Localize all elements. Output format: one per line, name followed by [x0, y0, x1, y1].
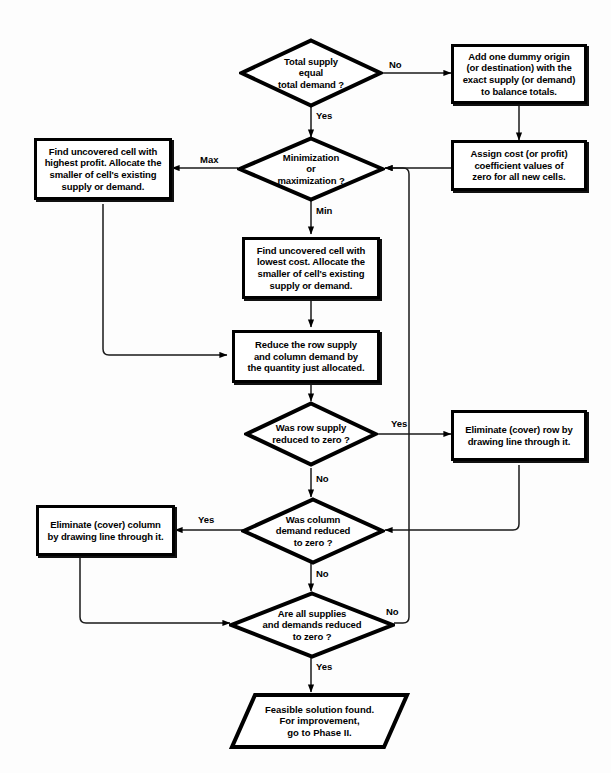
edge-label-supply-no: No — [389, 60, 402, 70]
edge-label-all-yes: Yes — [316, 662, 332, 672]
decision-column-demand-zero[interactable]: Was column demand reduced to zero ? — [241, 497, 385, 565]
text-line: Assign cost (or profit) — [471, 148, 568, 160]
process-eliminate-row-label: Eliminate (cover) row by drawing line th… — [465, 424, 572, 447]
process-lowest-cost-label: Find uncovered cell with lowest cost. Al… — [257, 245, 365, 291]
process-highest-profit-label: Find uncovered cell with highest profit.… — [45, 146, 162, 192]
text-line: equal — [278, 67, 344, 79]
edge-label-min: Min — [316, 206, 332, 216]
text-line: reduced to zero ? — [272, 434, 349, 446]
edge-label-col-yes: Yes — [198, 515, 214, 525]
text-line: coefficient values of — [471, 160, 568, 172]
terminal-feasible-solution-label: Feasible solution found. For improvement… — [229, 692, 410, 750]
edge-label-row-no: No — [316, 474, 329, 484]
edge-elimrow-to-coldemand — [385, 465, 519, 530]
edge-elimcol-to-allreduced — [80, 557, 230, 623]
text-line: Are all supplies — [263, 608, 362, 620]
decision-all-reduced-zero[interactable]: Are all supplies and demands reduced to … — [229, 591, 395, 659]
edge-label-all-no: No — [386, 607, 399, 617]
text-line: Find uncovered cell with — [257, 245, 365, 257]
edge-all-no-loop — [385, 168, 409, 623]
text-line: maximization ? — [277, 175, 344, 187]
decision-total-supply[interactable]: Total supply equal total demand ? — [239, 38, 383, 108]
text-line: Was column — [276, 514, 351, 526]
text-line: and column demand by — [247, 351, 364, 363]
decision-row-supply-zero[interactable]: Was row supply reduced to zero ? — [244, 401, 378, 467]
process-lowest-cost[interactable]: Find uncovered cell with lowest cost. Al… — [242, 237, 380, 299]
decision-row-supply-zero-label: Was row supply reduced to zero ? — [244, 401, 378, 467]
text-line: drawing line through it. — [465, 436, 572, 448]
edge-label-col-no: No — [316, 569, 329, 579]
text-line: smaller of cell's existing — [257, 268, 365, 280]
text-line: to balance totals. — [463, 86, 576, 98]
text-line: supply or demand. — [45, 181, 162, 193]
decision-all-reduced-zero-label: Are all supplies and demands reduced to … — [229, 591, 395, 659]
text-line: lowest cost. Allocate the — [257, 256, 365, 268]
text-line: (or destination) with the — [463, 62, 576, 74]
process-add-dummy-origin-label: Add one dummy origin (or destination) wi… — [463, 51, 576, 97]
text-line: to zero ? — [276, 537, 351, 549]
text-line: highest profit. Allocate the — [45, 157, 162, 169]
process-highest-profit[interactable]: Find uncovered cell with highest profit.… — [34, 138, 172, 200]
text-line: total demand ? — [278, 79, 344, 91]
edge-highest-to-reduce — [103, 204, 227, 355]
process-reduce-supply-demand-label: Reduce the row supply and column demand … — [247, 339, 364, 374]
text-line: by drawing line through it. — [47, 531, 163, 543]
decision-total-supply-label: Total supply equal total demand ? — [239, 38, 383, 108]
text-line: supply or demand. — [257, 280, 365, 292]
text-line: demand reduced — [276, 525, 351, 537]
text-line: the quantity just allocated. — [247, 362, 364, 374]
flowchart-canvas: Total supply equal total demand ? Add on… — [0, 0, 611, 773]
decision-column-demand-zero-label: Was column demand reduced to zero ? — [241, 497, 385, 565]
process-eliminate-row[interactable]: Eliminate (cover) row by drawing line th… — [451, 410, 587, 461]
edge-label-max: Max — [200, 155, 218, 165]
text-line: to zero ? — [263, 631, 362, 643]
text-line: Add one dummy origin — [463, 51, 576, 63]
text-line: Minimization — [277, 152, 344, 164]
text-line: Feasible solution found. — [265, 704, 374, 716]
process-assign-cost[interactable]: Assign cost (or profit) coefficient valu… — [451, 140, 587, 191]
text-line: go to Phase II. — [265, 727, 374, 739]
process-eliminate-column[interactable]: Eliminate (cover) column by drawing line… — [36, 505, 175, 556]
process-add-dummy-origin[interactable]: Add one dummy origin (or destination) wi… — [451, 44, 587, 104]
text-line: and demands reduced — [263, 619, 362, 631]
text-line: exact supply (or demand) — [463, 74, 576, 86]
process-eliminate-column-label: Eliminate (cover) column by drawing line… — [47, 519, 163, 542]
decision-min-or-max[interactable]: Minimization or maximization ? — [237, 136, 385, 202]
text-line: Was row supply — [272, 422, 349, 434]
edge-label-row-yes: Yes — [391, 419, 407, 429]
text-line: Find uncovered cell with — [45, 146, 162, 158]
text-line: zero for all new cells. — [471, 171, 568, 183]
edge-label-supply-yes: Yes — [316, 111, 332, 121]
text-line: smaller of cell's existing — [45, 169, 162, 181]
process-assign-cost-label: Assign cost (or profit) coefficient valu… — [471, 148, 568, 183]
text-line: Total supply — [278, 56, 344, 68]
decision-min-or-max-label: Minimization or maximization ? — [237, 136, 385, 202]
text-line: Eliminate (cover) row by — [465, 424, 572, 436]
text-line: Eliminate (cover) column — [47, 519, 163, 531]
text-line: For improvement, — [265, 715, 374, 727]
process-reduce-supply-demand[interactable]: Reduce the row supply and column demand … — [232, 330, 380, 383]
terminal-feasible-solution[interactable]: Feasible solution found. For improvement… — [229, 692, 410, 750]
text-line: or — [277, 163, 344, 175]
text-line: Reduce the row supply — [247, 339, 364, 351]
